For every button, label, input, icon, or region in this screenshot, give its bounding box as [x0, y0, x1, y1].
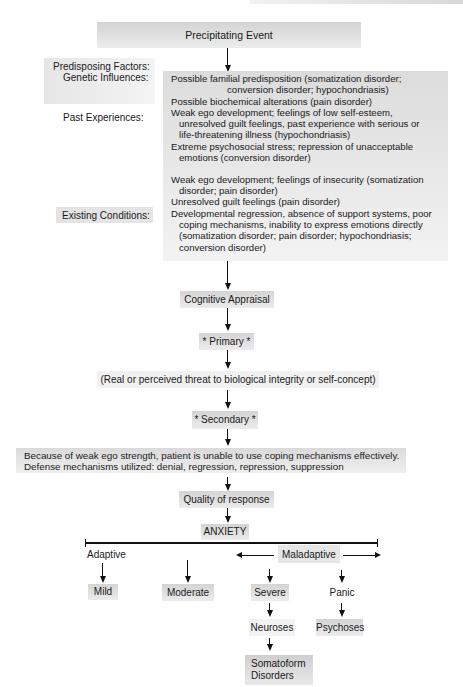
precipitating-event-box: Precipitating Event — [97, 22, 361, 48]
severe-label: Severe — [254, 587, 286, 598]
anxiety-label: ANXIETY — [204, 526, 247, 537]
neuroses-box: Neuroses — [249, 619, 295, 636]
detail-line: (somatization disorder; pain disorder; h… — [179, 230, 412, 241]
arrow-down-icon — [267, 610, 273, 617]
arrow-down-icon — [185, 576, 191, 583]
detail-line: Developmental regression, absence of sup… — [171, 208, 432, 219]
psychoses-box: Psychoses — [316, 619, 363, 636]
arrow-down-icon — [267, 644, 273, 651]
somatoform-label-line-2: Disorders — [251, 670, 313, 682]
detail-line: Weak ego development; feelings of insecu… — [171, 174, 424, 185]
detail-line: Possible familial predisposition (somati… — [171, 73, 401, 84]
threat-label: (Real or perceived threat to biological … — [100, 374, 375, 385]
detail-line: conversion disorder) — [179, 242, 266, 253]
arrow-down-icon — [100, 576, 106, 583]
mild-label: Mild — [94, 586, 112, 597]
maladaptive-label: Maladaptive — [282, 549, 336, 560]
continuum-left-tick — [85, 539, 86, 547]
anxiety-box: ANXIETY — [201, 524, 249, 540]
arrow-down-icon — [225, 324, 231, 331]
arrow-down-icon — [225, 283, 231, 290]
primary-box: * Primary * — [199, 333, 254, 350]
moderate-box: Moderate — [162, 584, 214, 601]
precipitating-event-label: Precipitating Event — [185, 29, 273, 41]
arrow-right-icon — [375, 552, 381, 558]
maladaptive-left-arrow-line — [240, 555, 274, 556]
adaptive-label: Adaptive — [87, 549, 126, 560]
predisposing-factors-heading: Predisposing Factors: — [53, 61, 150, 72]
maladaptive-right-arrow-line — [343, 555, 375, 556]
genetic-influences-label: Genetic Influences: — [63, 72, 149, 83]
moderate-label: Moderate — [167, 587, 209, 598]
arrow-down-icon — [225, 439, 231, 446]
primary-label: * Primary * — [203, 336, 251, 347]
severe-box: Severe — [251, 584, 289, 601]
panic-label: Panic — [329, 587, 354, 598]
somatoform-disorders-box: Somatoform Disorders — [245, 655, 313, 685]
secondary-label: * Secondary * — [194, 414, 255, 425]
detail-line: conversion disorder; hypochondriasis) — [227, 84, 389, 95]
coping-line-1: Because of weak ego strength, patient is… — [24, 450, 399, 461]
quality-of-response-box: Quality of response — [179, 491, 274, 508]
existing-conditions-label: Existing Conditions: — [62, 210, 150, 221]
mild-box: Mild — [88, 584, 118, 600]
detail-line: life-threatening illness (hypochondriasi… — [179, 129, 350, 140]
detail-line: Possible biochemical alterations (pain d… — [171, 96, 372, 107]
coping-line-2: Defense mechanisms utilized: denial, reg… — [24, 461, 344, 472]
detail-line: Weak ego development; feelings of low se… — [171, 107, 393, 118]
secondary-box: * Secondary * — [192, 411, 258, 429]
psychoses-label: Psychoses — [316, 622, 364, 633]
somatoform-label-line-1: Somatoform — [251, 658, 313, 670]
arrow-down-icon — [339, 610, 345, 617]
connector-line — [227, 308, 228, 325]
quality-of-response-label: Quality of response — [183, 494, 269, 505]
neuroses-label: Neuroses — [251, 622, 294, 633]
detail-line: disorder; pain disorder) — [179, 185, 278, 196]
detail-line: coping mechanisms, inability to express … — [179, 219, 423, 230]
anxiety-continuum-line — [86, 542, 378, 544]
arrow-left-icon — [236, 552, 242, 558]
continuum-right-tick — [377, 539, 378, 547]
past-experiences-label: Past Experiences: — [63, 112, 144, 123]
arrow-down-icon — [225, 516, 231, 523]
detail-line: Unresolved guilt feelings (pain disorder… — [171, 196, 340, 207]
threat-box: (Real or perceived threat to biological … — [97, 371, 379, 388]
page-header-fragment — [250, 0, 463, 4]
detail-line: Extreme psychosocial stress; repression … — [171, 141, 413, 152]
cognitive-appraisal-box: Cognitive Appraisal — [180, 291, 274, 308]
detail-line: unresolved guilt feelings, past experien… — [179, 118, 420, 129]
arrow-down-icon — [225, 484, 231, 491]
arrow-down-icon — [339, 576, 345, 583]
arrow-down-icon — [225, 362, 231, 369]
arrow-down-icon — [225, 402, 231, 409]
connector-line — [227, 261, 228, 285]
panic-box: Panic — [327, 584, 357, 601]
arrow-down-icon — [267, 576, 273, 583]
cognitive-appraisal-label: Cognitive Appraisal — [184, 294, 270, 305]
detail-line: emotions (conversion disorder) — [179, 152, 311, 163]
